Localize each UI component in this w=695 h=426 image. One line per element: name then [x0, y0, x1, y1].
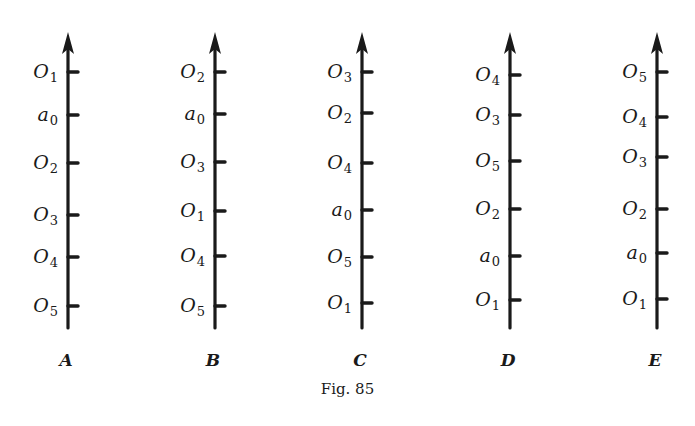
tick-label: a0: [312, 200, 352, 222]
tick-label: O4: [165, 246, 205, 268]
tick-label: O1: [312, 293, 352, 315]
tick-label: O4: [460, 65, 500, 87]
tick-label: a0: [165, 104, 205, 126]
tick-label: O3: [607, 147, 647, 169]
axis-e: [651, 32, 667, 328]
axis-name-a: A: [51, 350, 81, 370]
axis-c: [356, 32, 372, 328]
tick-label: O3: [165, 152, 205, 174]
tick-label: O2: [165, 62, 205, 84]
tick-label: O1: [165, 201, 205, 223]
tick-label: O2: [460, 199, 500, 221]
tick-label: O2: [607, 199, 647, 221]
tick-label: O3: [312, 62, 352, 84]
tick-label: O5: [607, 62, 647, 84]
tick-label: O3: [460, 105, 500, 127]
axis-d: [504, 32, 520, 328]
axis-name-d: D: [493, 350, 523, 370]
tick-label: O5: [312, 247, 352, 269]
tick-label: O5: [460, 151, 500, 173]
tick-label: O5: [165, 296, 205, 318]
tick-label: a0: [607, 243, 647, 265]
tick-label: O1: [18, 62, 58, 84]
axis-a: [62, 32, 78, 328]
tick-label: O3: [18, 205, 58, 227]
axis-b: [209, 32, 225, 328]
axis-name-e: E: [640, 350, 670, 370]
tick-label: O2: [312, 103, 352, 125]
fig-85-ordering-axes: O1a0O2O3O4O5AO2a0O3O1O4O5BO3O2O4a0O5O1CO…: [0, 0, 695, 426]
tick-label: O1: [607, 289, 647, 311]
tick-label: a0: [460, 246, 500, 268]
figure-caption: Fig. 85: [0, 380, 695, 398]
tick-label: O4: [607, 107, 647, 129]
tick-label: a0: [18, 105, 58, 127]
axis-name-b: B: [198, 350, 228, 370]
tick-label: O5: [18, 296, 58, 318]
axis-name-c: C: [345, 350, 375, 370]
tick-label: O4: [312, 153, 352, 175]
tick-label: O2: [18, 153, 58, 175]
tick-label: O4: [18, 247, 58, 269]
tick-label: O1: [460, 290, 500, 312]
